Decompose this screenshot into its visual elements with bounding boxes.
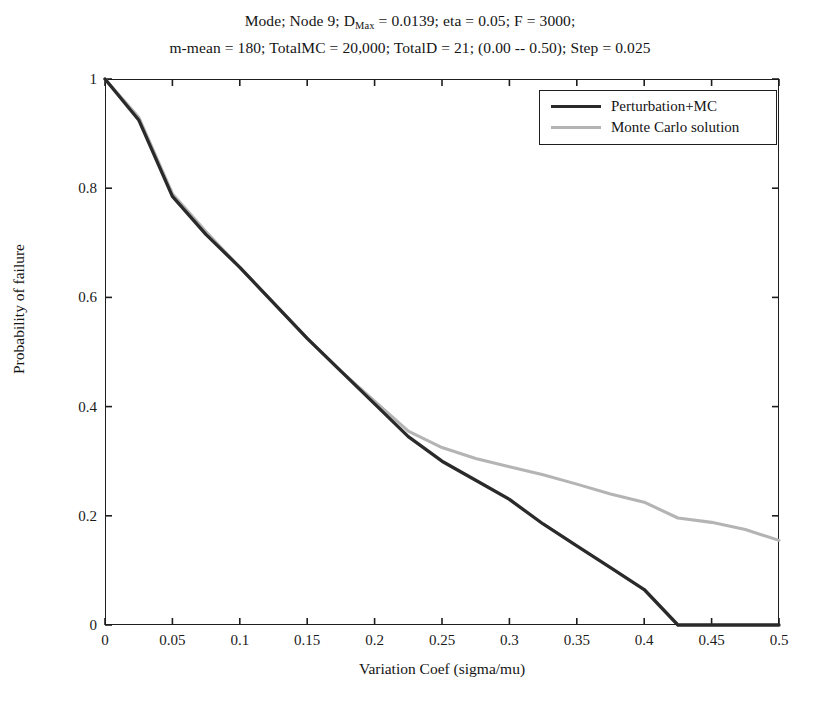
- y-tick-label: 0.6: [78, 289, 97, 306]
- y-tick-label: 0.2: [78, 507, 97, 524]
- legend-label-monte-carlo-solution: Monte Carlo solution: [611, 119, 739, 136]
- legend-label-perturbation-mc: Perturbation+MC: [611, 98, 717, 115]
- series-line-perturbation-mc: [105, 79, 779, 625]
- x-tick-label: 0.25: [429, 632, 455, 649]
- y-axis-label: Probability of failure: [10, 169, 28, 449]
- x-tick-label: 0.05: [159, 632, 185, 649]
- legend-swatch-perturbation-mc: [551, 105, 601, 108]
- chart-title-subscript: Max: [355, 20, 375, 31]
- chart-legend: Perturbation+MC Monte Carlo solution: [539, 90, 777, 145]
- y-tick-label: 0: [90, 617, 98, 634]
- y-tick-label: 1: [90, 71, 98, 88]
- x-tick-label: 0.1: [230, 632, 249, 649]
- x-tick-label: 0.35: [564, 632, 590, 649]
- x-tick-label: 0.4: [635, 632, 654, 649]
- x-tick-label: 0.15: [294, 632, 320, 649]
- x-tick-label: 0: [101, 632, 109, 649]
- x-tick-label: 0.3: [500, 632, 519, 649]
- chart-title-line-1-pre: Mode; Node 9; D: [245, 12, 355, 29]
- chart-title-line-1-post: = 0.0139; eta = 0.05; F = 3000;: [375, 12, 576, 29]
- x-tick-label: 0.45: [698, 632, 724, 649]
- x-tick-label: 0.5: [770, 632, 789, 649]
- x-axis-label: Variation Coef (sigma/mu): [105, 660, 779, 678]
- chart-title-line-1: Mode; Node 9; DMax = 0.0139; eta = 0.05;…: [0, 10, 820, 37]
- axis-ticks: [105, 79, 779, 625]
- y-tick-label: 0.4: [78, 398, 97, 415]
- x-tick-label: 0.2: [365, 632, 384, 649]
- chart-figure: Mode; Node 9; DMax = 0.0139; eta = 0.05;…: [0, 0, 820, 709]
- chart-title: Mode; Node 9; DMax = 0.0139; eta = 0.05;…: [0, 10, 820, 59]
- legend-item-perturbation-mc: Perturbation+MC: [540, 96, 776, 117]
- chart-title-line-2: m-mean = 180; TotalMC = 20,000; TotalD =…: [0, 37, 820, 59]
- data-curves: [105, 79, 779, 625]
- y-tick-label: 0.8: [78, 180, 97, 197]
- legend-swatch-monte-carlo-solution: [551, 126, 601, 129]
- series-line-monte-carlo-solution: [105, 79, 779, 540]
- plot-area: 00.20.40.60.81 00.050.10.150.20.250.30.3…: [105, 79, 779, 625]
- legend-item-monte-carlo-solution: Monte Carlo solution: [540, 117, 776, 138]
